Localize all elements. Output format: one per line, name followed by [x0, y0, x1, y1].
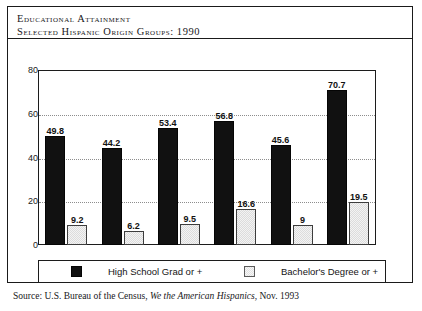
y-axis-tick-40: 40	[14, 154, 38, 163]
gridline	[39, 159, 375, 160]
gridline	[39, 202, 375, 203]
figure-box: Educational Attainment Selected Hispanic…	[7, 6, 413, 283]
legend-label-bachelors: Bachelor's Degree or +	[281, 266, 378, 277]
figure-screenshot: Educational Attainment Selected Hispanic…	[0, 0, 422, 311]
figure-caption: Educational Attainment Selected Hispanic…	[8, 7, 412, 39]
legend-item-bachelors: Bachelor's Degree or +	[212, 266, 385, 277]
legend-item-high-school: High School Grad or +	[39, 266, 212, 277]
y-axis-tick-60: 60	[14, 110, 38, 119]
source-note: Source: U.S. Bureau of the Census, We th…	[13, 291, 299, 301]
caption-line-2: Selected Hispanic Origin Groups: 1990	[17, 25, 412, 38]
source-suffix: , Nov. 1993	[255, 291, 299, 301]
source-title: We the American Hispanics	[150, 291, 255, 301]
source-prefix: Source: U.S. Bureau of the Census,	[13, 291, 150, 301]
chart-legend: High School Grad or + Bachelor's Degree …	[38, 260, 386, 283]
legend-label-high-school: High School Grad or +	[108, 266, 202, 277]
legend-swatch-dark-icon	[71, 266, 82, 277]
legend-swatch-light-icon	[244, 266, 255, 277]
plot-frame	[38, 70, 376, 245]
gridlines	[39, 71, 375, 244]
y-axis-tick-80: 80	[14, 66, 38, 75]
gridline	[39, 115, 375, 116]
chart-region: 020406080 49.89.244.26.253.49.556.816.64…	[8, 39, 412, 282]
caption-line-1: Educational Attainment	[17, 12, 412, 25]
y-axis-tick-0: 0	[14, 241, 38, 250]
y-axis-tick-20: 20	[14, 197, 38, 206]
